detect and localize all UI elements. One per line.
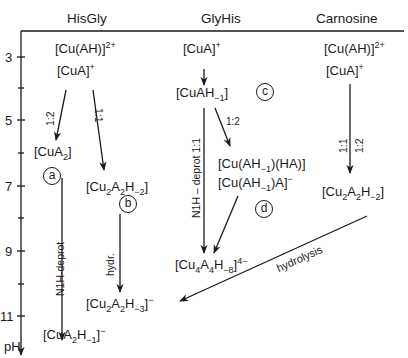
species-cu2a2h-2-carnosine: [Cu2A2H−2] (322, 185, 384, 198)
species-cu-ah-2plus-hisgly: [Cu(AH)]2+ (55, 42, 116, 55)
species-cu-ah-1-a-minus: [Cu(AH−1)A]− (218, 176, 293, 189)
species-cu-ah-1-ha: [Cu(AH−1)(HA)] (218, 157, 306, 170)
label-d: d (255, 200, 273, 218)
species-cu4a4h-8-4minus: [Cu4A4H−8]4− (175, 258, 247, 271)
species-cua-plus-hisgly: [CuA]+ (57, 64, 95, 77)
tick-label-9: 9 (5, 245, 12, 258)
label-a: a (43, 167, 61, 185)
axis-label-ph: pH (4, 340, 21, 353)
species-cua-plus-carnosine: [CuA]+ (326, 64, 364, 77)
species-cua2h-1-minus: [CuA2H−1]− (43, 328, 105, 341)
tick-label-5: 5 (5, 114, 12, 127)
ratio-label-1-2-carnosine: 1:2 (353, 138, 365, 153)
label-b: b (119, 195, 137, 213)
column-header-carnosine: Carnosine (316, 12, 378, 26)
arrow-glyhis-d (214, 196, 238, 253)
tick-label-3: 3 (5, 51, 12, 64)
ratio-label-1-2-hisgly: 1:2 (44, 111, 56, 126)
arrow-glyhis-1to2 (215, 108, 230, 146)
n1h-deprot-label-hisgly: N1H-deprot (54, 242, 66, 296)
species-cua-plus-glyhis: [CuA]+ (183, 42, 221, 55)
hydr-label: hydr. (104, 253, 116, 276)
tick-label-7: 7 (5, 180, 12, 193)
species-cua2: [CuA2] (34, 145, 72, 158)
species-cu2a2h-2: [Cu2A2H−2] (86, 180, 148, 193)
ratio-label-1-1-carnosine: 1:1 (337, 138, 349, 153)
n1h-deprot-label-glyhis: N1H – deprot 1:1 (190, 138, 202, 218)
species-cu-ah-2plus-carnosine: [Cu(AH)]2+ (324, 42, 385, 55)
species-cu2a2h-3-minus: [Cu2A2H−3]− (86, 297, 153, 310)
arrow-hisgly-1to1 (93, 90, 104, 170)
column-header-glyhis: GlyHis (201, 12, 241, 26)
species-cuah-1: [CuAH−1] (176, 86, 228, 99)
ratio-label-1-1-hisgly: 1:1 (93, 108, 105, 123)
arrow-hisgly-1to2 (56, 90, 66, 140)
ratio-label-1-2-glyhis: 1:2 (226, 117, 240, 127)
tick-label-11: 11 (0, 310, 14, 323)
column-header-hisgly: HisGly (67, 12, 107, 26)
label-c: c (256, 83, 274, 101)
